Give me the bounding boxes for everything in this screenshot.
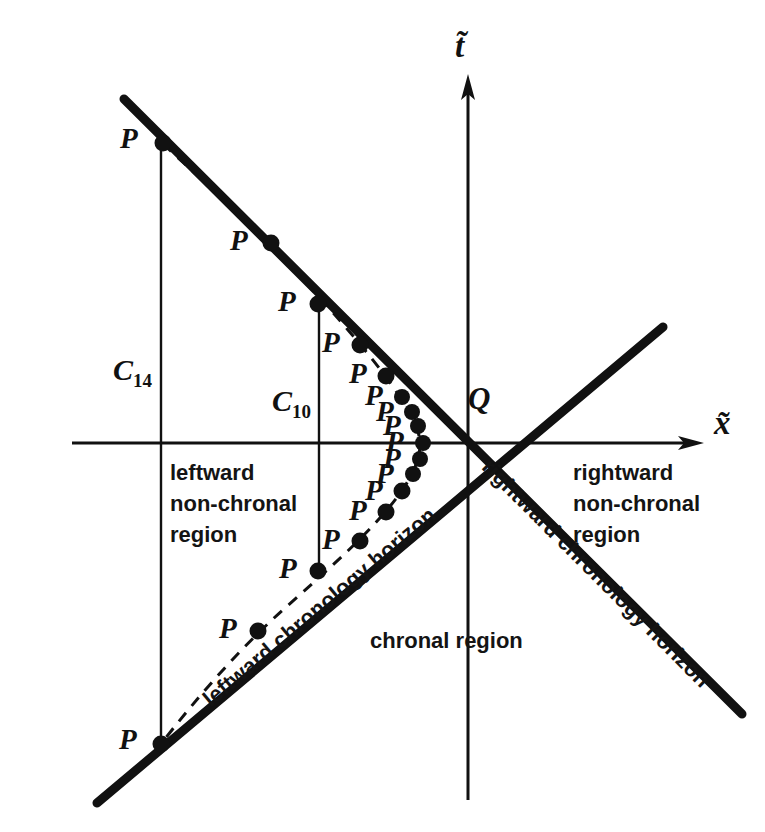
curve-label-c14-sub: 14	[133, 370, 152, 391]
rightward-region-label: rightward non-chronal region	[573, 457, 700, 550]
curve-label-c10-sub: 10	[292, 401, 311, 422]
p-event-dot	[310, 563, 327, 580]
leftward-region-line-3: region	[170, 519, 297, 550]
rightward-region-line-2: non-chronal	[573, 488, 700, 519]
curve-label-c14: C14	[113, 353, 152, 392]
chronal-region-label: chronal region	[370, 625, 523, 656]
curve-label-c14-base: C	[113, 353, 133, 386]
p-label: P	[219, 612, 237, 645]
origin-label-q: Q	[468, 381, 490, 417]
p-event-dot	[352, 337, 369, 354]
rightward-region-line-1: rightward	[573, 457, 700, 488]
p-event-dot	[412, 451, 428, 467]
p-event-dot	[410, 418, 426, 434]
p-label: P	[120, 122, 138, 155]
p-event-dot	[155, 135, 172, 152]
figure-canvas: t̃ x̃ Q C14 C10 P P P P P P P P P P P P …	[0, 0, 765, 832]
x-axis-label: x̃	[714, 405, 731, 442]
p-event-dot	[394, 483, 411, 500]
p-event-dot	[415, 435, 431, 451]
p-event-dot	[263, 235, 280, 252]
p-label: P	[349, 494, 367, 527]
p-label: P	[322, 326, 340, 359]
p-event-dot	[405, 466, 421, 482]
t-axis-label: t̃	[455, 28, 464, 65]
leftward-region-line-1: leftward	[170, 457, 297, 488]
p-label: P	[322, 523, 340, 556]
leftward-region-line-2: non-chronal	[170, 488, 297, 519]
p-event-dot	[404, 404, 420, 420]
p-event-dot	[153, 736, 170, 753]
p-event-dot	[394, 389, 410, 405]
leftward-region-label: leftward non-chronal region	[170, 457, 297, 550]
curve-label-c10-base: C	[272, 384, 292, 417]
p-label: P	[279, 552, 297, 585]
curve-label-c10: C10	[272, 384, 311, 423]
p-event-dot	[310, 296, 327, 313]
p-label: P	[230, 224, 248, 257]
rightward-region-line-3: region	[573, 519, 700, 550]
p-label: P	[119, 723, 137, 756]
p-label: P	[278, 285, 296, 318]
p-label: P	[365, 474, 383, 507]
